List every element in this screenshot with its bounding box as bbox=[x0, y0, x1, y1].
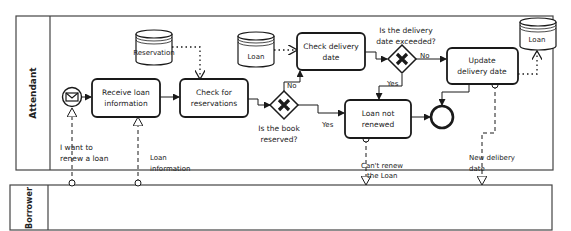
label-yes: Yes bbox=[386, 80, 399, 88]
label-no: No bbox=[420, 52, 430, 60]
svg-text:renewed: renewed bbox=[362, 120, 395, 129]
data-store-reservation[interactable]: Reservation bbox=[133, 30, 175, 65]
data-store-loan[interactable]: Loan bbox=[238, 32, 274, 67]
svg-text:reservations: reservations bbox=[191, 99, 238, 108]
svg-text:date: date bbox=[469, 165, 485, 173]
svg-text:Is the book: Is the book bbox=[258, 124, 300, 133]
svg-text:Loan: Loan bbox=[248, 53, 265, 61]
task-loan-not-renewed[interactable]: Loan not renewed bbox=[345, 100, 411, 138]
svg-text:reserved?: reserved? bbox=[261, 135, 298, 144]
svg-text:Loan: Loan bbox=[150, 154, 167, 162]
svg-text:Is the delivery: Is the delivery bbox=[379, 26, 433, 35]
svg-text:Receive loan: Receive loan bbox=[102, 88, 150, 97]
label-yes: Yes bbox=[321, 121, 334, 129]
pool-label-borrower: Borrower bbox=[25, 187, 34, 229]
pool-label-attendant: Attendant bbox=[28, 67, 38, 119]
svg-text:Can't renew: Can't renew bbox=[361, 162, 403, 170]
task-check-for-reservations[interactable]: Check for reservations bbox=[180, 79, 248, 117]
svg-text:Check delivery: Check delivery bbox=[303, 42, 359, 51]
svg-text:renew a loan: renew a loan bbox=[60, 154, 109, 163]
svg-text:information: information bbox=[104, 99, 148, 108]
svg-text:Loan not: Loan not bbox=[362, 109, 395, 118]
svg-text:Loan: Loan bbox=[529, 36, 546, 44]
task-update-delivery-date[interactable]: Update delivery date bbox=[447, 48, 518, 84]
svg-text:date: date bbox=[323, 53, 340, 62]
svg-text:Reservation: Reservation bbox=[133, 49, 175, 57]
pool-borrower: Borrower bbox=[10, 185, 552, 230]
label-no: No bbox=[287, 82, 297, 90]
svg-text:Update: Update bbox=[468, 56, 496, 65]
svg-text:delivery date: delivery date bbox=[457, 67, 507, 76]
task-check-delivery-date[interactable]: Check delivery date bbox=[297, 33, 365, 70]
envelope-icon bbox=[66, 93, 78, 101]
start-event[interactable] bbox=[63, 88, 82, 107]
svg-text:New delibery: New delibery bbox=[469, 154, 515, 162]
svg-text:information: information bbox=[150, 165, 190, 173]
data-store-loan-2[interactable]: Loan bbox=[520, 18, 556, 50]
end-event[interactable] bbox=[431, 106, 453, 128]
svg-text:Check for: Check for bbox=[196, 88, 233, 97]
bpmn-diagram: Attendant Borrower bbox=[0, 0, 571, 231]
svg-text:I want to: I want to bbox=[60, 143, 93, 152]
svg-text:the Loan: the Loan bbox=[367, 172, 398, 180]
task-receive-loan-information[interactable]: Receive loan information bbox=[92, 79, 160, 117]
svg-text:date exceeded?: date exceeded? bbox=[376, 37, 436, 46]
